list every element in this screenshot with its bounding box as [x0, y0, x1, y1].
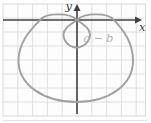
x-axis-label: x: [139, 20, 146, 34]
y-axis-label: y: [65, 0, 73, 13]
curve-annotation-a-minus-b: a − b: [84, 32, 114, 45]
polar-graph-figure: y x a − b: [0, 0, 151, 123]
limacon-plot-canvas: y x a − b: [0, 0, 151, 123]
